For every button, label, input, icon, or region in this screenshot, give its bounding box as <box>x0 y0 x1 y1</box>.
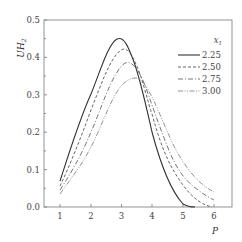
plot-frame <box>44 20 232 207</box>
legend-item-2.25: 2.25 <box>178 50 221 60</box>
series-2.25-line <box>60 38 195 207</box>
x-tick-label: 1 <box>57 211 62 221</box>
series-3.00-line <box>60 78 214 194</box>
legend-title: x1 <box>214 35 222 46</box>
x-tick-labels: 1 2 3 4 5 6 <box>57 211 216 221</box>
y-tick-label: 0.4 <box>26 52 40 62</box>
legend-item-3.00: 3.00 <box>178 86 221 96</box>
legend-label: 2.25 <box>202 50 221 60</box>
legend-label: 2.75 <box>202 74 221 84</box>
legend-item-2.75: 2.75 <box>178 74 221 84</box>
chart: 0.0 0.1 0.2 0.3 0.4 0.5 1 2 3 4 5 6 P UH… <box>0 0 242 242</box>
y-axis-title: UH2 <box>16 38 27 57</box>
legend: x1 2.25 2.50 2.75 3.00 <box>178 35 222 96</box>
series-lines <box>60 38 214 207</box>
y-tick-label: 0.0 <box>26 202 40 212</box>
x-tick-label: 4 <box>149 211 154 221</box>
legend-item-2.50: 2.50 <box>178 62 221 72</box>
y-tick-label: 0.1 <box>26 165 40 175</box>
y-tick-label: 0.5 <box>26 15 40 25</box>
series-2.50-line <box>60 49 212 207</box>
x-tick-label: 3 <box>119 211 124 221</box>
series-2.75-line <box>60 63 214 200</box>
y-tick-labels: 0.0 0.1 0.2 0.3 0.4 0.5 <box>26 15 40 212</box>
legend-label: 2.50 <box>202 62 221 72</box>
x-axis-title: P <box>211 226 219 236</box>
legend-label: 3.00 <box>202 86 221 96</box>
x-tick-label: 2 <box>88 211 93 221</box>
x-tick-label: 5 <box>180 211 185 221</box>
y-tick-label: 0.3 <box>26 90 40 100</box>
x-tick-label: 6 <box>211 211 216 221</box>
y-tick-label: 0.2 <box>26 127 40 137</box>
svg-text:UH2: UH2 <box>16 38 27 57</box>
